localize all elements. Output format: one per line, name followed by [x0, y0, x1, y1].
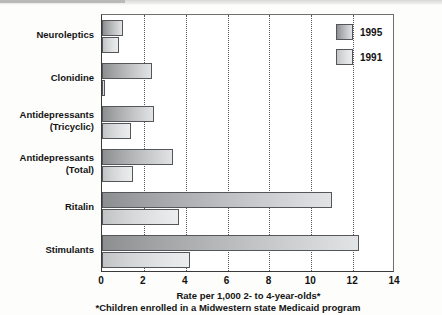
category-label-antidepressants-tricyclic: Antidepressants(Tricyclic)	[0, 109, 94, 132]
legend-item-1995: 1995	[336, 24, 396, 40]
category-label-neuroleptics: Neuroleptics	[0, 29, 94, 41]
chart-legend: 19951991	[336, 24, 396, 74]
x-tick-label-14: 14	[382, 275, 406, 286]
legend-label-1995: 1995	[360, 27, 382, 38]
category-label-stimulants: Stimulants	[0, 244, 94, 256]
legend-label-1991: 1991	[360, 52, 382, 63]
x-axis-title: Rate per 1,000 2- to 4-year-olds*	[0, 290, 442, 301]
legend-item-1991: 1991	[336, 49, 396, 65]
category-label-antidepressants-total: Antidepressants(Total)	[0, 152, 94, 175]
legend-swatch-1995	[336, 24, 353, 40]
category-label-ritalin: Ritalin	[0, 201, 94, 213]
legend-swatch-1991	[336, 49, 353, 65]
x-tick-label-0: 0	[89, 275, 113, 286]
chart-figure: NeurolepticsClonidineAntidepressants(Tri…	[0, 0, 442, 315]
x-tick-label-4: 4	[173, 275, 197, 286]
x-tick-label-2: 2	[131, 275, 155, 286]
x-tick-label-12: 12	[340, 275, 364, 286]
x-tick-label-6: 6	[215, 275, 239, 286]
chart-footnote: *Children enrolled in a Midwestern state…	[0, 302, 442, 313]
x-tick-label-8: 8	[256, 275, 280, 286]
x-tick-label-10: 10	[298, 275, 322, 286]
category-label-clonidine: Clonidine	[0, 72, 94, 84]
